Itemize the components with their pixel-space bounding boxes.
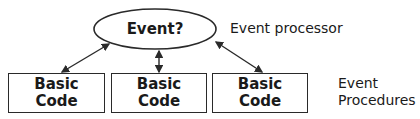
procedure-box-1-line1: Basic <box>34 76 79 93</box>
arrow-right <box>216 42 262 72</box>
event-processor-label: Event? <box>93 8 217 50</box>
event-procedures-caption-line1: Event <box>338 75 416 92</box>
procedure-box-2-line2: Code <box>138 93 180 110</box>
procedure-box-3-line1: Basic <box>238 76 283 93</box>
procedure-box-3: Basic Code <box>212 73 308 113</box>
event-processor-caption: Event processor <box>230 20 343 37</box>
procedure-box-2-line1: Basic <box>137 76 182 93</box>
procedure-box-2: Basic Code <box>111 73 207 113</box>
procedure-box-3-line2: Code <box>239 93 281 110</box>
event-procedures-caption-line2: Procedures <box>338 92 416 109</box>
procedure-box-1-line2: Code <box>35 93 77 110</box>
event-procedures-caption: Event Procedures <box>338 75 416 109</box>
procedure-box-1: Basic Code <box>8 73 105 113</box>
